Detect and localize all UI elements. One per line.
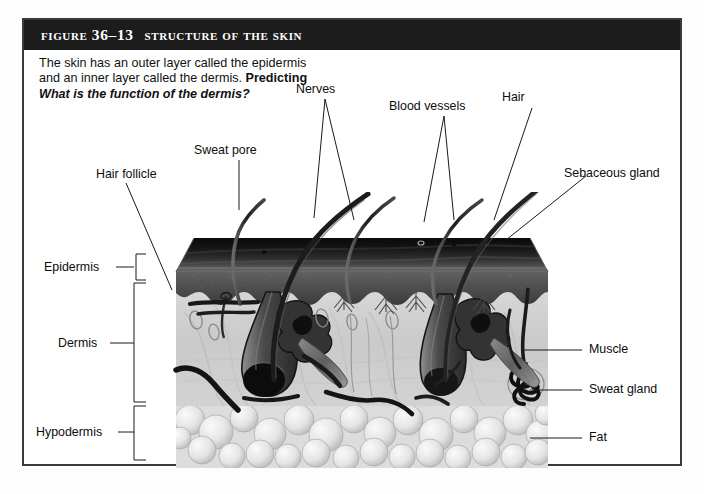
label-fat: Fat (589, 430, 607, 444)
page-background: Figure 36–13Structure of the Skin The sk… (0, 0, 704, 494)
caption-line2: dermis. (201, 71, 246, 85)
label-sweat-gland: Sweat gland (589, 382, 657, 396)
figure-caption: The skin has an outer layer called the e… (39, 56, 329, 102)
label-muscle: Muscle (589, 342, 628, 356)
label-dermis: Dermis (58, 336, 97, 350)
label-sebaceous-gland: Sebaceous gland (564, 166, 660, 180)
label-blood-vessels: Blood vessels (389, 99, 465, 113)
figure-title: Figure 36–13Structure of the Skin (24, 26, 302, 44)
label-hair-follicle: Hair follicle (96, 167, 157, 181)
label-hypodermis: Hypodermis (36, 425, 102, 439)
label-sweat-pore: Sweat pore (194, 143, 257, 157)
figure-title-text: Structure of the Skin (145, 26, 302, 43)
bracket-dermis (134, 283, 146, 402)
figure-box: Figure 36–13Structure of the Skin The sk… (22, 18, 682, 466)
skin-cross-section-diagram (154, 192, 570, 468)
bracket-epidermis (136, 254, 146, 280)
label-hair: Hair (502, 90, 525, 104)
caption-question: What is the function of the dermis? (39, 87, 250, 101)
figure-number: Figure 36–13 (41, 26, 134, 43)
bracket-hypodermis (134, 406, 146, 460)
label-epidermis: Epidermis (44, 260, 99, 274)
skin-illustration (154, 192, 570, 468)
hypodermis-fat-layer (169, 398, 557, 468)
label-nerves: Nerves (296, 82, 335, 96)
figure-title-bar: Figure 36–13Structure of the Skin (24, 20, 680, 50)
